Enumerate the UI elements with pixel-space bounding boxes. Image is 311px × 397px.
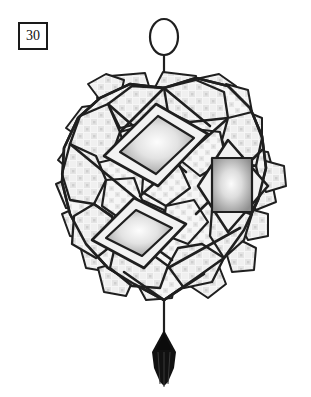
tassel-group bbox=[152, 300, 176, 387]
mirror-glass bbox=[212, 158, 252, 212]
suspension-loop-icon bbox=[150, 19, 178, 55]
ornament-drawing bbox=[0, 0, 311, 397]
patchwork-body bbox=[56, 72, 286, 300]
illustration-plate: 30 bbox=[0, 0, 311, 397]
